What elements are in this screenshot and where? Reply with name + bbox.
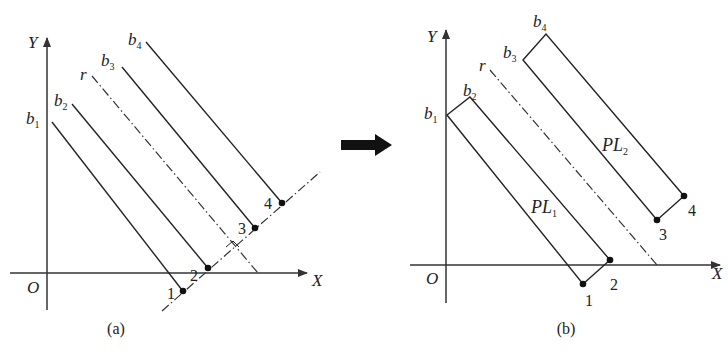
region-pl1 — [447, 97, 610, 284]
line-b1 — [52, 122, 182, 290]
y-axis-label: Y — [427, 27, 438, 46]
point-2 — [607, 257, 614, 264]
point-label-3: 3 — [238, 220, 246, 237]
point-label-1: 1 — [167, 285, 175, 302]
panel-a: Y X O b1 b2 r b3 b4 1 2 3 4 (a) — [10, 30, 323, 338]
point-label-2: 2 — [610, 276, 618, 293]
point-3 — [654, 217, 661, 224]
label-b4: b4 — [533, 12, 547, 33]
x-axis-label: X — [711, 264, 723, 283]
label-b4: b4 — [128, 30, 142, 51]
point-label-3: 3 — [659, 226, 667, 243]
right-angle-marker — [226, 241, 239, 247]
caption-a: (a) — [107, 320, 125, 338]
point-1 — [580, 281, 587, 288]
label-b3: b3 — [503, 43, 517, 64]
origin-label: O — [27, 278, 39, 297]
point-label-1: 1 — [585, 292, 593, 309]
label-b1: b1 — [26, 109, 40, 130]
origin-label: O — [426, 269, 438, 288]
x-axis-label: X — [311, 271, 323, 290]
diagram-canvas: Y X O b1 b2 r b3 b4 1 2 3 4 (a) Y X — [0, 0, 728, 360]
label-b1: b1 — [424, 104, 438, 125]
region-label-pl1: PL1 — [530, 197, 557, 219]
point-label-4: 4 — [264, 195, 272, 212]
label-b3: b3 — [101, 51, 115, 72]
point-2 — [205, 265, 212, 272]
point-4 — [279, 200, 286, 207]
line-r — [92, 76, 258, 273]
point-3 — [252, 225, 259, 232]
panel-b: Y X O b1 b2 r b3 b4 PL1 PL2 1 2 3 4 (b) — [410, 12, 723, 338]
label-b2: b2 — [54, 91, 68, 112]
label-b2: b2 — [463, 81, 477, 102]
line-r — [490, 70, 657, 265]
line-b2 — [72, 104, 208, 268]
region-pl2 — [523, 34, 684, 220]
label-r: r — [80, 65, 87, 84]
caption-b: (b) — [557, 320, 576, 338]
point-1 — [180, 288, 187, 295]
point-label-2: 2 — [190, 267, 198, 284]
right-arrow-icon — [341, 134, 392, 156]
y-axis-label: Y — [28, 33, 39, 52]
region-label-pl2: PL2 — [601, 135, 628, 157]
label-r: r — [479, 56, 486, 75]
point-4 — [681, 193, 688, 200]
point-label-4: 4 — [688, 202, 696, 219]
